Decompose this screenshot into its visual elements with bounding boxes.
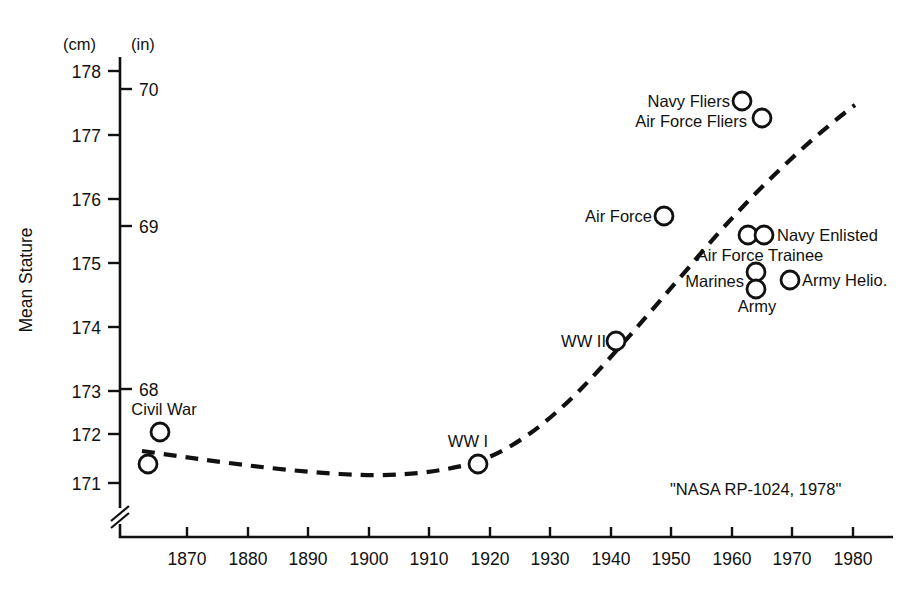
data-point-marker[interactable]	[747, 280, 765, 298]
point-label-air-force-fliers: Air Force Fliers	[635, 112, 747, 130]
y-tick-label-cm: 171	[72, 474, 101, 494]
data-point-marker[interactable]	[655, 207, 673, 225]
y-axis-unit-cm-header: (cm)	[63, 35, 96, 53]
point-label-army-helio: Army Helio.	[802, 271, 887, 289]
point-label-ww2: WW II	[561, 332, 606, 350]
x-axis-line	[120, 524, 893, 537]
data-point-marker[interactable]	[733, 92, 751, 110]
source-citation: "NASA RP-1024, 1978"	[670, 480, 841, 498]
x-tick-label: 1920	[471, 549, 510, 569]
point-label-air-force: Air Force	[585, 207, 652, 225]
y-tick-label-cm: 176	[72, 190, 101, 210]
data-point-marker[interactable]	[753, 109, 771, 127]
point-label-civil-war: Civil War	[131, 400, 197, 418]
point-label-navy-enlisted: Navy Enlisted	[777, 226, 878, 244]
data-point-marker[interactable]	[781, 271, 799, 289]
data-point-marker[interactable]	[151, 423, 169, 441]
y-tick-label-in: 68	[139, 380, 158, 400]
point-label-marines: Marines	[685, 272, 744, 290]
y-tick-label-cm: 172	[72, 425, 101, 445]
data-point-marker[interactable]	[139, 455, 157, 473]
x-tick-label: 1890	[289, 549, 328, 569]
y-tick-label-cm: 178	[72, 62, 101, 82]
x-tick-label: 1980	[834, 549, 873, 569]
y-tick-label-cm: 177	[72, 126, 101, 146]
x-tick-label: 1930	[531, 549, 570, 569]
x-tick-label: 1900	[350, 549, 389, 569]
x-axis-ticks: 1870 1880 1890 1900 1910 1920 1930 1940 …	[168, 527, 873, 569]
y-tick-label-in: 70	[139, 80, 159, 100]
y-axis-title: Mean Stature	[16, 227, 36, 332]
y-tick-label-in: 69	[139, 217, 158, 237]
x-tick-label: 1940	[592, 549, 631, 569]
y-tick-label-cm: 175	[72, 254, 101, 274]
data-point-marker[interactable]	[755, 226, 773, 244]
y-tick-label-cm: 173	[72, 382, 101, 402]
y-axis-ticks-cm: 178 177 176 175 174 173 172 171	[72, 62, 120, 494]
y-axis-break-mark-upper	[111, 506, 129, 521]
point-label-ww1: WW I	[448, 432, 488, 450]
data-point-marker[interactable]	[747, 263, 765, 281]
y-axis-ticks-in: 70 69 68	[120, 80, 159, 400]
chart-page: (cm) (in) Mean Stature 178 177 176 175 1…	[0, 0, 915, 591]
y-tick-label-cm: 174	[72, 318, 101, 338]
x-tick-label: 1880	[229, 549, 268, 569]
x-tick-label: 1970	[773, 549, 812, 569]
x-tick-label: 1960	[713, 549, 752, 569]
x-tick-label: 1910	[410, 549, 449, 569]
data-point-marker[interactable]	[469, 455, 487, 473]
point-label-navy-fliers: Navy Fliers	[647, 92, 730, 110]
stature-trend-chart: (cm) (in) Mean Stature 178 177 176 175 1…	[0, 0, 915, 591]
x-tick-label: 1950	[652, 549, 691, 569]
x-tick-label: 1870	[168, 549, 207, 569]
y-axis-unit-in-header: (in)	[131, 35, 155, 53]
point-label-air-force-trainee: Air Force Trainee	[697, 246, 824, 264]
data-point-marker[interactable]	[607, 332, 625, 350]
point-label-army: Army	[738, 297, 777, 315]
